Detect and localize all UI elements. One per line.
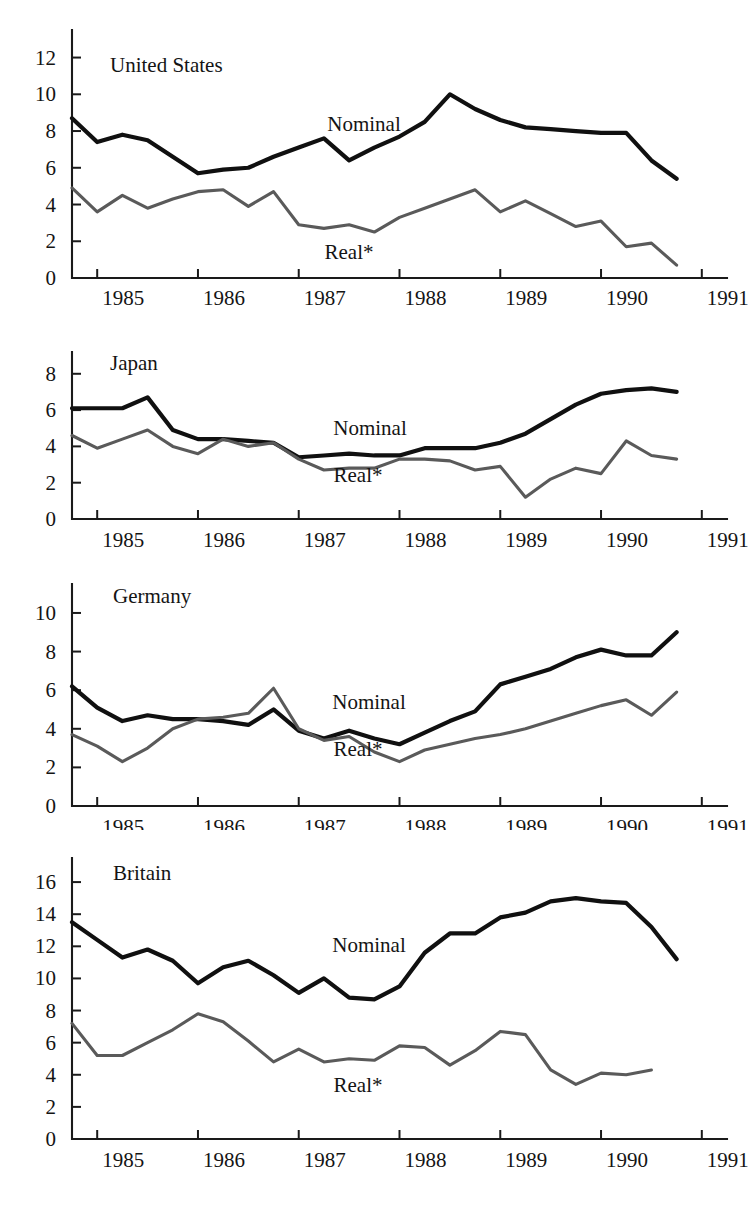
x-tick-label: 1988 — [405, 815, 447, 830]
x-tick-label: 1989 — [505, 286, 547, 310]
x-tick-label: 1990 — [606, 1148, 648, 1172]
y-tick-label: 0 — [46, 266, 57, 290]
series-line-nominal — [72, 632, 677, 744]
y-tick-label: 6 — [46, 398, 57, 422]
y-tick-label: 16 — [35, 870, 56, 894]
x-tick-label: 1991 — [707, 1148, 749, 1172]
x-tick-label: 1985 — [102, 286, 144, 310]
panel-germany-svg: 02468101985198619871988198919901991 Germ… — [0, 562, 752, 830]
y-tick-label: 8 — [46, 362, 57, 386]
x-tick-label: 1990 — [606, 815, 648, 830]
y-tick-label: 4 — [46, 193, 57, 217]
series-label-real-2: Real* — [334, 737, 383, 761]
y-tick-label: 6 — [46, 678, 57, 702]
x-tick-label: 1987 — [304, 815, 346, 830]
y-tick-label: 0 — [46, 794, 57, 818]
y-tick-label: 12 — [35, 46, 56, 70]
plot-geometry-3: 0246810121416198519861987198819891990199… — [35, 858, 749, 1172]
y-tick-label: 8 — [46, 640, 57, 664]
y-tick-label: 10 — [35, 601, 56, 625]
x-tick-label: 1985 — [102, 528, 144, 552]
y-tick-label: 6 — [46, 156, 57, 180]
x-tick-label: 1987 — [304, 1148, 346, 1172]
plot-geometry-1: 024681985198619871988198919901991 — [46, 352, 749, 552]
interest-rate-chart-figure: 0246810121985198619871988198919901991 Un… — [0, 0, 752, 1209]
x-tick-label: 1986 — [203, 286, 245, 310]
series-label-nominal-3: Nominal — [332, 933, 406, 957]
x-tick-label: 1990 — [606, 528, 648, 552]
axis-spine — [72, 858, 727, 1139]
x-tick-label: 1985 — [102, 815, 144, 830]
panel-japan: 024681985198619871988198919901991 Japan … — [0, 312, 752, 562]
x-tick-label: 1990 — [606, 286, 648, 310]
panel-title-germany: Germany — [113, 584, 192, 608]
x-tick-label: 1985 — [102, 1148, 144, 1172]
x-tick-label: 1989 — [505, 815, 547, 830]
y-tick-label: 6 — [46, 1031, 57, 1055]
y-tick-label: 4 — [46, 1063, 57, 1087]
y-tick-label: 8 — [46, 119, 57, 143]
x-tick-label: 1991 — [707, 286, 749, 310]
panel-title-united-states: United States — [110, 53, 223, 77]
x-tick-label: 1989 — [505, 528, 547, 552]
panel-britain-svg: 0246810121416198519861987198819891990199… — [0, 830, 752, 1209]
x-tick-label: 1987 — [304, 528, 346, 552]
series-label-nominal-1: Nominal — [333, 416, 407, 440]
panel-germany: 02468101985198619871988198919901991 Germ… — [0, 562, 752, 830]
series-line-real — [72, 188, 677, 265]
x-tick-label: 1986 — [203, 1148, 245, 1172]
series-label-real-0: Real* — [325, 240, 374, 264]
y-tick-label: 0 — [46, 507, 57, 531]
panel-united-states-svg: 0246810121985198619871988198919901991 Un… — [0, 0, 752, 312]
series-label-real-1: Real* — [334, 463, 383, 487]
x-tick-label: 1991 — [707, 528, 749, 552]
y-tick-label: 10 — [35, 82, 56, 106]
x-tick-label: 1989 — [505, 1148, 547, 1172]
x-tick-label: 1991 — [707, 815, 749, 830]
y-tick-label: 14 — [35, 902, 57, 926]
x-tick-label: 1987 — [304, 286, 346, 310]
y-tick-label: 12 — [35, 934, 56, 958]
panel-japan-svg: 024681985198619871988198919901991 Japan … — [0, 312, 752, 562]
series-label-nominal-0: Nominal — [327, 112, 401, 136]
series-label-nominal-2: Nominal — [332, 690, 406, 714]
y-tick-label: 8 — [46, 999, 57, 1023]
y-tick-label: 2 — [46, 471, 57, 495]
panel-title-britain: Britain — [113, 861, 172, 885]
series-line-nominal — [72, 94, 677, 179]
x-tick-label: 1988 — [405, 528, 447, 552]
y-tick-label: 4 — [46, 717, 57, 741]
y-tick-label: 10 — [35, 966, 56, 990]
panel-britain: 0246810121416198519861987198819891990199… — [0, 830, 752, 1209]
series-label-real-3: Real* — [334, 1073, 383, 1097]
y-tick-label: 2 — [46, 1095, 57, 1119]
x-tick-label: 1988 — [405, 1148, 447, 1172]
x-tick-label: 1986 — [203, 815, 245, 830]
panel-title-japan: Japan — [110, 351, 158, 375]
y-tick-label: 0 — [46, 1127, 57, 1151]
y-tick-label: 4 — [46, 434, 57, 458]
panel-united-states: 0246810121985198619871988198919901991 Un… — [0, 0, 752, 312]
y-tick-label: 2 — [46, 229, 57, 253]
x-tick-label: 1988 — [405, 286, 447, 310]
x-tick-label: 1986 — [203, 528, 245, 552]
y-tick-label: 2 — [46, 755, 57, 779]
